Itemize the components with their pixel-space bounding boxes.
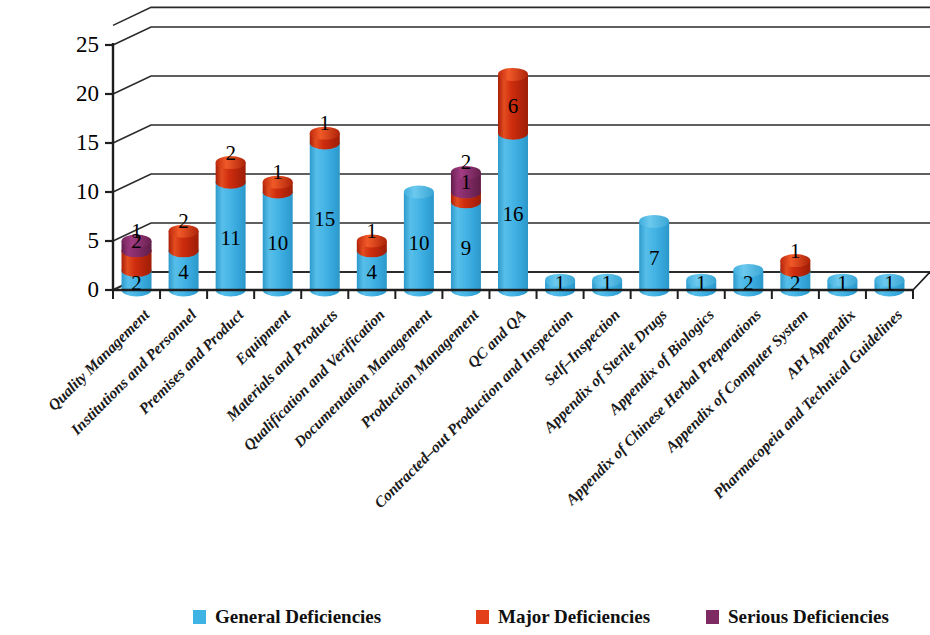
bar-value-label: 1 [320, 113, 331, 134]
bar-value-label: 1 [790, 240, 801, 261]
bar-value-label: 11 [221, 228, 241, 249]
bar-value-label: 1 [461, 172, 472, 193]
bar-value-label: 1 [696, 273, 707, 294]
bar-value-label: 2 [225, 142, 236, 163]
bar-value-label: 2 [461, 152, 472, 173]
bar-value-label: 10 [408, 233, 429, 254]
y-axis-tick-label: 25 [57, 33, 99, 56]
bar-value-label: 16 [503, 203, 524, 224]
legend-color-swatch [193, 610, 206, 624]
y-axis-tick-label: 10 [57, 180, 99, 203]
legend-color-swatch [706, 610, 719, 624]
bar-value-label: 7 [649, 247, 660, 268]
bar-value-label: 15 [314, 208, 335, 229]
bar-value-label: 10 [267, 233, 288, 254]
bar-value-label: 4 [367, 262, 378, 283]
bar-value-label: 2 [743, 273, 754, 294]
legend-color-swatch [476, 610, 489, 624]
bar-value-label: 1 [837, 273, 848, 294]
y-axis-tick-label: 15 [57, 131, 99, 154]
legend-item[interactable]: General Deficiencies [193, 607, 381, 626]
bar-value-label: 2 [131, 273, 142, 294]
floor-right-edge [913, 272, 930, 290]
bar-top-cap [498, 68, 528, 81]
bar-value-label: 2 [178, 211, 189, 232]
bar-value-label: 4 [178, 262, 189, 283]
bar-value-label: 1 [555, 273, 566, 294]
legend-label: General Deficiencies [215, 607, 381, 626]
bar-top-cap [404, 186, 434, 199]
bar-value-label: 1 [602, 273, 613, 294]
bar-value-label: 9 [461, 237, 472, 258]
bar-value-label: 1 [131, 221, 142, 242]
legend-label: Serious Deficiencies [728, 607, 889, 626]
bar-value-label: 6 [508, 95, 519, 116]
y-axis-tick-label: 5 [57, 229, 99, 252]
gridline [113, 27, 930, 45]
legend-item[interactable]: Serious Deficiencies [706, 607, 889, 626]
chart-legend: General DeficienciesMajor DeficienciesSe… [0, 605, 930, 635]
y-axis-tick-label: 20 [57, 82, 99, 105]
chart-container: 0510152025 22142112101151411091216611712… [0, 0, 930, 635]
plot-top-edge [113, 7, 930, 25]
bar-value-label: 1 [367, 221, 378, 242]
bar-value-label: 1 [272, 162, 283, 183]
bar-value-label: 2 [790, 273, 801, 294]
y-axis-tick-label: 0 [57, 278, 99, 301]
bar-top-cap [639, 215, 669, 228]
legend-label: Major Deficiencies [498, 607, 650, 626]
bar-value-label: 1 [884, 273, 895, 294]
legend-item[interactable]: Major Deficiencies [476, 607, 650, 626]
